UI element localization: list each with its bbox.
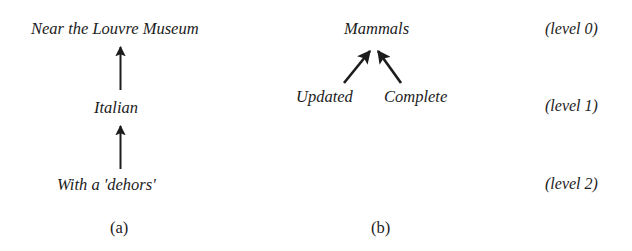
node-complete: Complete [384,89,447,106]
level-label-0: (level 0) [545,21,598,37]
level-label-1: (level 1) [545,98,598,114]
node-near-the-louvre-museum: Near the Louvre Museum [31,21,199,38]
panel-caption-a: (a) [110,220,128,237]
edge-updated-to-mammals [344,51,370,83]
level-label-2: (level 2) [545,176,598,192]
edge-complete-to-mammals [378,51,401,83]
node-italian: Italian [94,100,138,117]
node-mammals: Mammals [344,21,409,38]
node-with-a-dehors: With a 'dehors' [57,177,156,194]
figure-container: Near the Louvre Museum Italian With a 'd… [0,0,632,251]
node-updated: Updated [296,89,353,106]
panel-caption-b: (b) [371,220,390,237]
